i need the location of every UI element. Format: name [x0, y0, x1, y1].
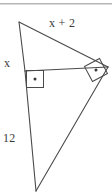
- segment-upper-leg: [19, 22, 25, 71]
- right-angle-mark-foot-icon: [27, 71, 44, 88]
- label-hypotenuse: x + 2: [49, 17, 75, 29]
- right-angle-mark-vertex-icon: [85, 59, 108, 82]
- segment-lower-leg: [25, 71, 36, 191]
- label-lower-leg: 12: [3, 132, 16, 144]
- geometry-figure: x + 2 x 12: [0, 0, 112, 193]
- segment-outer-side: [36, 67, 108, 191]
- label-upper-leg: x: [4, 57, 10, 69]
